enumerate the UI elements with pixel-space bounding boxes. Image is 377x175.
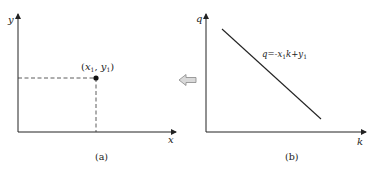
panel-a-point-label: (x1, y1) (81, 61, 114, 73)
panel-a-y-label: y (7, 14, 14, 25)
panel-a-x-label: x (168, 134, 174, 145)
panel-b-y-label: q (196, 13, 202, 24)
panel-b: q k q=-x1k+y1 (b) (196, 13, 366, 162)
panel-a: y x (x1, y1) (a) (7, 14, 176, 162)
panel-b-line-equation: q=-x1k+y1 (262, 49, 307, 60)
panel-b-x-label: k (357, 136, 363, 147)
panel-b-parameter-line (222, 29, 321, 119)
panel-a-point (93, 75, 98, 80)
hough-transform-diagram: y x (x1, y1) (a) q k q=-x1k+y1 (b) (0, 0, 377, 175)
panel-a-caption: (a) (95, 151, 108, 162)
panel-b-caption: (b) (285, 151, 299, 162)
transform-arrow-icon (179, 75, 196, 86)
